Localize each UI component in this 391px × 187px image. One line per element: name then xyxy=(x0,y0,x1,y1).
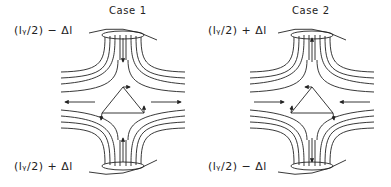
diagram-canvas xyxy=(0,0,391,187)
case2-diagram xyxy=(250,29,374,174)
case1-diagram xyxy=(61,29,185,174)
